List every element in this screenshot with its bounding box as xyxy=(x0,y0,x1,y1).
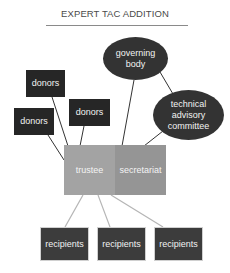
donors-middle-node: donors xyxy=(69,99,110,126)
governing-body-node: governing body xyxy=(103,37,168,80)
donors-top-node: donors xyxy=(26,70,65,97)
recipients-2-label: recipients xyxy=(102,239,141,250)
donors-middle-label: donors xyxy=(76,107,104,118)
edge-tac-secretariat xyxy=(144,131,163,146)
edge-donors-top-trustee xyxy=(52,97,68,146)
recipients-3-label: recipients xyxy=(159,239,198,250)
edge-governing-tac xyxy=(160,72,173,94)
edge-trustee-recipients-2 xyxy=(98,195,110,227)
edge-governing-secretariat xyxy=(122,80,134,146)
secretariat-node: secretariat xyxy=(115,145,166,195)
donors-left-label: donors xyxy=(20,116,48,127)
recipients-node-1: recipients xyxy=(40,227,89,261)
edge-donors-left-trustee xyxy=(48,135,64,160)
recipients-node-3: recipients xyxy=(154,227,203,261)
governing-body-label: governing body xyxy=(112,48,160,70)
recipients-1-label: recipients xyxy=(45,239,84,250)
edge-trustee-recipients-3 xyxy=(111,195,163,227)
technical-advisory-committee-node: technical advisory committee xyxy=(153,90,224,140)
trustee-label: trustee xyxy=(76,165,104,176)
donors-left-node: donors xyxy=(14,108,54,135)
edge-donors-middle-trustee xyxy=(80,126,84,146)
recipients-node-2: recipients xyxy=(97,227,146,261)
donors-top-label: donors xyxy=(32,78,60,89)
edge-trustee-recipients-1 xyxy=(65,195,83,227)
trustee-node: trustee xyxy=(64,145,115,195)
secretariat-label: secretariat xyxy=(119,165,161,176)
tac-label: technical advisory committee xyxy=(161,99,217,132)
